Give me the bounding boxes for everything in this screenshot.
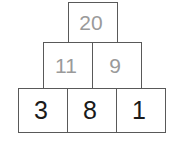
pyramid-cell-middle-1[interactable]: 9: [92, 42, 142, 89]
pyramid-cell-value: 8: [83, 98, 97, 123]
pyramid-cell-value: 20: [79, 12, 102, 33]
pyramid-cell-middle-0[interactable]: 11: [43, 42, 93, 89]
pyramid-cell-bottom-0[interactable]: 3: [18, 88, 68, 133]
pyramid-cell-bottom-2[interactable]: 1: [116, 88, 166, 133]
pyramid-cell-bottom-1[interactable]: 8: [67, 88, 117, 133]
pyramid-cell-top-0[interactable]: 20: [68, 2, 118, 43]
pyramid-row-bottom: 3 8 1: [18, 88, 166, 133]
pyramid-cell-value: 9: [109, 55, 121, 76]
pyramid-cell-value: 11: [55, 55, 77, 76]
pyramid-cell-value: 3: [34, 98, 48, 123]
pyramid-row-top: 20: [68, 2, 118, 43]
number-pyramid: 20 11 9 3 8 1: [0, 0, 180, 150]
pyramid-cell-value: 1: [132, 98, 146, 123]
pyramid-row-middle: 11 9: [43, 42, 142, 89]
